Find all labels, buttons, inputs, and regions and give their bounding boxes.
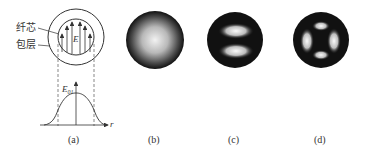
fiber-mode-diagram: E 纤芯 包层 r E01 (a) (b) (c) [0,0,365,158]
caption-d: (d) [314,134,326,146]
r-axis-label: r [110,119,114,129]
cladding-leader [38,45,50,46]
panel-d: (d) [293,12,349,146]
caption-c: (c) [228,134,239,146]
mode-pattern-lp11 [207,12,263,68]
panel-a: E 纤芯 包层 r E01 (a) [16,9,114,146]
caption-a: (a) [68,134,79,146]
field-symbol: E [72,34,79,44]
field-profile-curve [44,93,106,125]
mode-pattern-lp01 [126,11,184,69]
cladding-label: 包层 [16,38,36,50]
panel-b: (b) [126,11,184,146]
panel-c: (c) [207,12,263,146]
core-label: 纤芯 [16,21,36,33]
caption-b: (b) [148,134,160,146]
